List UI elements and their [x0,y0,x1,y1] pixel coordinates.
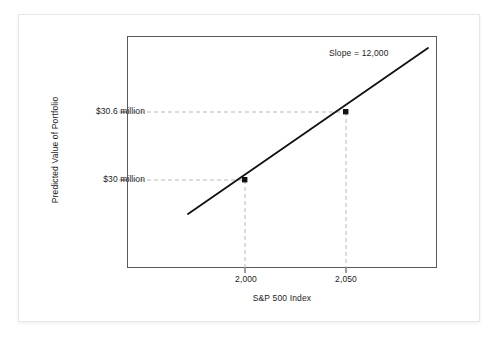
x-tick-label-2000: 2,000 [227,274,265,284]
y-tick-label-30: $30 million [103,174,145,184]
slope-annotation: Slope = 12,000 [329,48,389,58]
y-axis-title: Predicted Value of Portfolio [50,70,60,230]
x-tick-label-2050: 2,050 [327,274,365,284]
plot-area-frame [127,36,437,268]
y-tick-label-30-6: $30.6 million [96,106,145,116]
x-axis-title: S&P 500 Index [187,293,377,303]
line-chart: $30.6 million $30 million 2,000 2,050 S&… [0,0,500,337]
